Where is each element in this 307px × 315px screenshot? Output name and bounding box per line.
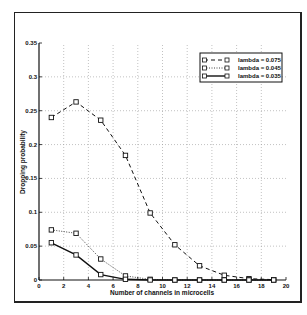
legend-marker: [225, 74, 229, 78]
data-point-marker: [123, 153, 127, 157]
data-point-marker: [247, 278, 251, 282]
legend-marker: [203, 58, 207, 62]
data-point-marker: [99, 272, 103, 276]
data-point-marker: [74, 253, 78, 257]
data-point-marker: [271, 278, 275, 282]
legend-label: lambda = 0.035: [238, 73, 282, 79]
data-point-marker: [99, 118, 103, 122]
x-axis-label: Number of channels in microcells: [110, 289, 214, 296]
y-axis-label: Dropping probability: [19, 130, 27, 194]
data-point-marker: [49, 241, 53, 245]
y-tick-label: 0.25: [25, 108, 37, 114]
data-point-marker: [74, 100, 78, 104]
x-tick-label: 2: [62, 283, 66, 289]
y-tick-label: 0.3: [29, 74, 38, 80]
data-point-marker: [197, 278, 201, 282]
data-point-marker: [74, 231, 78, 235]
data-point-marker: [173, 243, 177, 247]
legend: lambda = 0.075lambda = 0.045lambda = 0.0…: [200, 53, 282, 82]
legend-marker: [225, 58, 229, 62]
data-point-marker: [197, 264, 201, 268]
line-chart: 0246810121416182000.050.10.150.20.250.30…: [0, 0, 307, 315]
data-point-marker: [173, 278, 177, 282]
x-tick-label: 20: [283, 283, 290, 289]
legend-marker: [203, 74, 207, 78]
x-tick-label: 0: [37, 283, 41, 289]
data-point-marker: [222, 273, 226, 277]
y-tick-label: 0.35: [25, 40, 37, 46]
legend-marker: [203, 66, 207, 70]
x-tick-label: 16: [233, 283, 240, 289]
y-tick-label: 0.15: [25, 175, 37, 181]
data-point-marker: [99, 257, 103, 261]
data-point-marker: [49, 228, 53, 232]
data-point-marker: [222, 278, 226, 282]
data-point-marker: [49, 115, 53, 119]
legend-label: lambda = 0.075: [238, 57, 282, 63]
legend-marker: [225, 66, 229, 70]
x-tick-label: 18: [258, 283, 265, 289]
x-tick-label: 4: [87, 283, 91, 289]
y-tick-label: 0.05: [25, 243, 37, 249]
data-point-marker: [123, 277, 127, 281]
y-tick-label: 0.2: [29, 142, 38, 148]
data-point-marker: [148, 278, 152, 282]
legend-label: lambda = 0.045: [238, 65, 282, 71]
data-point-marker: [148, 211, 152, 215]
y-tick-label: 0.1: [29, 209, 38, 215]
data-series: [49, 100, 276, 282]
